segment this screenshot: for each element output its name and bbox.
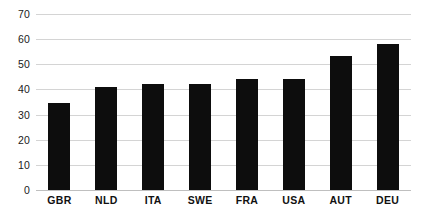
bar — [48, 103, 70, 190]
y-tick-label: 50 — [2, 59, 30, 70]
bar — [189, 84, 211, 190]
y-tick-label: 10 — [2, 160, 30, 171]
bar — [330, 56, 352, 191]
y-tick-label: 70 — [2, 9, 30, 20]
x-tick-label: GBR — [47, 195, 71, 206]
bar-slot — [83, 14, 130, 190]
bar-slot — [130, 14, 177, 190]
x-tick-label: NLD — [95, 195, 117, 206]
bar-slot — [224, 14, 271, 190]
axis-baseline — [36, 190, 411, 191]
bar-slot — [36, 14, 83, 190]
y-tick-label: 30 — [2, 109, 30, 120]
y-tick-label: 20 — [2, 134, 30, 145]
y-axis: 010203040506070 — [0, 14, 30, 190]
bar-chart: 010203040506070 GBRNLDITASWEFRAUSAAUTDEU — [0, 0, 423, 220]
y-tick-label: 0 — [2, 185, 30, 196]
bar — [283, 79, 305, 190]
y-tick-label: 60 — [2, 34, 30, 45]
x-tick-label: USA — [282, 195, 305, 206]
bar-slot — [270, 14, 317, 190]
x-tick-label: DEU — [376, 195, 399, 206]
x-tick-label: FRA — [236, 195, 258, 206]
bar — [377, 44, 399, 190]
x-tick-label: AUT — [329, 195, 351, 206]
x-tick-label: ITA — [145, 195, 162, 206]
x-tick-label: SWE — [188, 195, 213, 206]
bar — [236, 79, 258, 190]
bars-layer — [36, 14, 411, 190]
bar-slot — [177, 14, 224, 190]
y-tick-label: 40 — [2, 84, 30, 95]
bar-slot — [364, 14, 411, 190]
bar — [95, 87, 117, 190]
bar — [142, 84, 164, 190]
x-axis: GBRNLDITASWEFRAUSAAUTDEU — [36, 193, 411, 215]
bar-slot — [317, 14, 364, 190]
